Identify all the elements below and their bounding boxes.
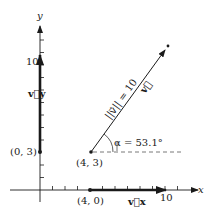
vector-tip-dot [167,45,170,48]
vector-vy [38,55,42,154]
vector-vx [88,188,166,192]
angle-label: α = 53.1° [114,137,163,148]
magnitude-label: ||v⃗|| = 10 [103,77,140,122]
y-tick-label-10: 10 [26,56,39,67]
angle-arc [104,134,113,152]
point-0-3-dot [38,150,42,154]
point-4-3-dot [89,150,93,154]
v-label: v⃗ [137,79,153,96]
x-tick-label-10: 10 [160,192,173,203]
point-4-0-dot [88,188,92,192]
point-label-4-0: (4, 0) [77,195,104,206]
vy-label: v⃗y [27,88,47,99]
vector-diagram: x y 10 10 v⃗y v⃗x ||v⃗|| = 10 v⃗ α = 53.… [0,0,212,219]
point-label-0-3: (0, 3) [10,146,37,157]
point-label-4-3: (4, 3) [76,157,103,168]
x-axis-label: x [198,184,204,195]
y-axis-label: y [36,10,43,21]
vx-label: v⃗x [127,196,147,207]
